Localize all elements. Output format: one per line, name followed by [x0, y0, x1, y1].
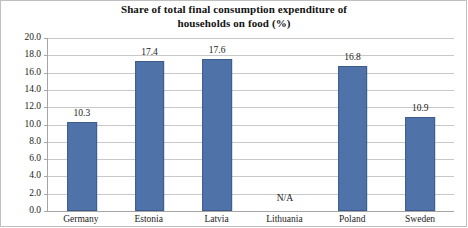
bar[interactable] [202, 59, 232, 211]
bar-slot: 10.9 [386, 38, 454, 211]
y-axis-tick-label: 18.0 [24, 51, 41, 61]
x-axis-category-label: Sweden [386, 213, 454, 225]
chart-title-line-1: Share of total final consumption expendi… [0, 2, 468, 16]
bar-value-label: 10.3 [74, 109, 91, 119]
bar-value-label: 17.6 [209, 46, 226, 56]
bar-slot: 16.8 [319, 38, 387, 211]
y-axis-tick-label: 20.0 [24, 33, 41, 43]
bar-slot: 17.6 [183, 38, 251, 211]
bar[interactable] [338, 66, 368, 211]
bars-group: 10.317.417.6N/A16.810.9 [48, 38, 454, 211]
plot-area: 20.018.016.014.012.010.08.06.04.02.00.0 … [47, 38, 454, 211]
x-axis-category-label: Lithuania [250, 213, 318, 225]
x-axis-category-label: Poland [318, 213, 386, 225]
chart-title: Share of total final consumption expendi… [0, 2, 468, 30]
chart-figure: Share of total final consumption expendi… [0, 0, 468, 228]
bar-value-label: 16.8 [344, 53, 361, 63]
y-axis-tick [44, 211, 48, 212]
bar[interactable] [405, 117, 435, 211]
bar-slot: 17.4 [116, 38, 184, 211]
x-axis-category-label: Germany [47, 213, 115, 225]
y-axis-tick-label: 0.0 [29, 206, 41, 216]
bar-value-label: 17.4 [141, 48, 158, 58]
bar-missing-label: N/A [277, 194, 293, 204]
y-axis-tick-label: 16.0 [24, 68, 41, 78]
plot-wrapper: 20.018.016.014.012.010.08.06.04.02.00.0 … [47, 38, 454, 211]
bar[interactable] [67, 122, 97, 211]
y-axis-tick-label: 2.0 [29, 189, 41, 199]
y-axis-tick-label: 10.0 [24, 120, 41, 130]
x-axis-category-label: Latvia [183, 213, 251, 225]
x-axis-category-label: Estonia [115, 213, 183, 225]
bar-slot: 10.3 [48, 38, 116, 211]
chart-title-line-2: households on food (%) [0, 16, 468, 30]
y-axis-tick-label: 4.0 [29, 172, 41, 182]
bar-value-label: 10.9 [412, 104, 429, 114]
y-axis-tick-label: 14.0 [24, 85, 41, 95]
y-axis-tick-label: 6.0 [29, 154, 41, 164]
bar-slot: N/A [251, 38, 319, 211]
y-axis-tick-label: 12.0 [24, 102, 41, 112]
x-axis-labels: GermanyEstoniaLatviaLithuaniaPolandSwede… [47, 213, 454, 225]
gridline [48, 211, 454, 212]
y-axis-tick-label: 8.0 [29, 137, 41, 147]
bar[interactable] [135, 61, 165, 212]
